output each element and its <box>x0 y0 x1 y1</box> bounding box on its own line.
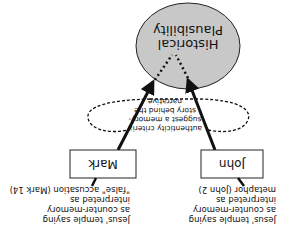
john-note-line4: metaphor (John 2) <box>199 185 276 195</box>
criteria-line1: authenticity criteria <box>128 124 202 133</box>
diagram-canvas: Historical Plausibility authenticity cri… <box>0 0 299 244</box>
criteria-line4: narrative <box>148 97 182 106</box>
mark-note-connector <box>92 178 96 186</box>
node-label-line1: Historical <box>158 37 219 52</box>
john-label: John <box>219 157 246 171</box>
mark-note-line1: Jesus' temple saying <box>43 215 131 225</box>
john-note: metaphor (John 2) interpreted as as coun… <box>189 185 277 225</box>
john-note-line1: Jesus' temple saying <box>189 215 277 225</box>
mark-note: "false" accusation (Mark 14) interpreted… <box>10 185 131 225</box>
john-note-line3: interpreted as <box>215 195 276 205</box>
john-node: John <box>201 150 263 178</box>
criteria-line2: suggest a memory- <box>128 115 201 124</box>
mark-note-line3: interpreted as <box>69 195 130 205</box>
node-label-line2: Plausibility <box>153 23 223 38</box>
john-note-line2: as counter-memory <box>193 205 276 215</box>
criteria-note: authenticity criteria suggest a memory- … <box>128 97 202 133</box>
john-note-connector <box>238 178 244 186</box>
mark-note-line2: as counter-memory <box>47 205 130 215</box>
criteria-line3: story behind the <box>134 106 196 115</box>
mark-label: Mark <box>88 157 118 171</box>
mark-note-line4: "false" accusation (Mark 14) <box>10 185 130 195</box>
mark-node: Mark <box>70 150 136 178</box>
